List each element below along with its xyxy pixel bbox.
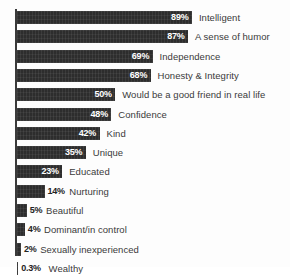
bar [17,185,45,198]
bar-category-label: Educated [69,165,110,178]
bar [17,223,25,236]
bar [17,30,188,43]
bar [17,243,21,256]
bar-category-label: Sexually inexperienced [40,243,139,256]
bar-value-label: 42% [79,127,96,140]
bar-category-label: A sense of humor [195,30,270,43]
bar-value-label: 14% [48,185,65,198]
bar-value-label: 68% [130,69,147,82]
bar-value-label: 87% [167,30,184,43]
bar-category-label: Dominant/in control [44,223,127,236]
bar-category-label: Intelligent [199,11,240,24]
bar-value-label: 5% [30,204,43,217]
bar-category-label: Kind [107,127,126,140]
bar-value-label: 69% [132,50,149,63]
bar-category-label: Unique [93,146,123,159]
bar-value-label: 0.3% [21,262,41,275]
bar [17,262,18,275]
bar-value-label: 50% [94,88,111,101]
bar-category-label: Independence [160,50,221,63]
bar-value-label: 89% [171,11,188,24]
bar-value-label: 48% [91,108,108,121]
bar-value-label: 2% [24,243,37,256]
bar-category-label: Nurturing [69,185,109,198]
bar-value-label: 35% [65,146,82,159]
bar [17,204,27,217]
bar-category-label: Honesty & Integrity [158,69,239,82]
bar-category-label: Would be a good friend in real life [122,88,265,101]
bar-value-label: 4% [28,223,41,236]
bar [17,11,192,24]
bar-category-label: Confidence [118,108,167,121]
bar-value-label: 23% [41,165,58,178]
bar-category-label: Wealthy [49,262,84,275]
bar-category-label: Beautiful [46,204,83,217]
